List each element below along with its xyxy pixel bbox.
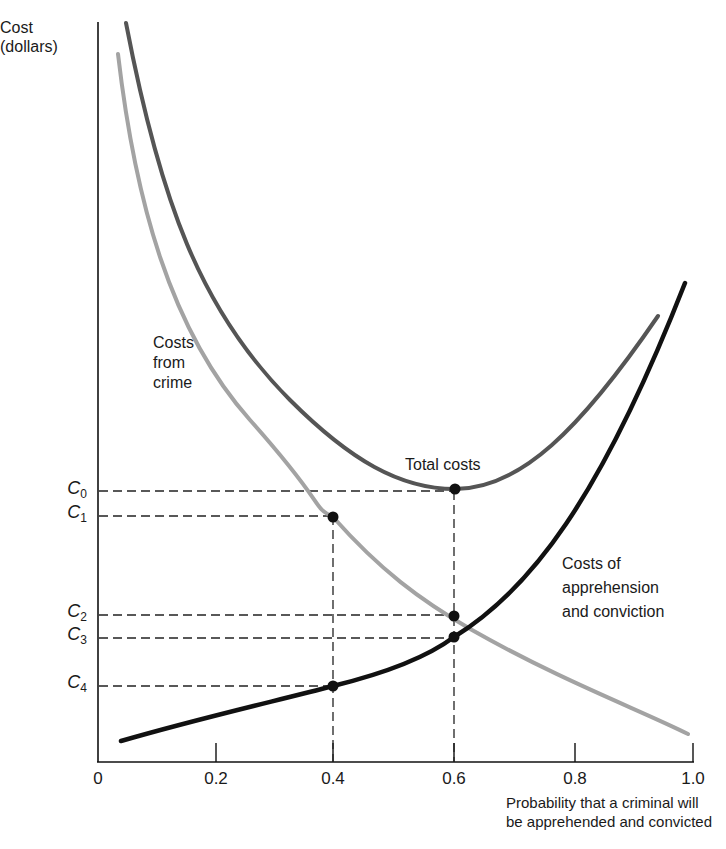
annotation-costs-of-apprehension: Costs of apprehension and conviction	[562, 552, 664, 624]
chart-canvas	[0, 0, 726, 849]
x-tick-0-4: 0.4	[321, 769, 345, 789]
x-tick-0-8: 0.8	[563, 769, 587, 789]
x-tick-1-0: 1.0	[681, 769, 705, 789]
y-tick-c4: C4	[27, 672, 87, 695]
point-c1	[328, 512, 339, 523]
point-c4	[328, 681, 339, 692]
point-c3	[449, 632, 460, 643]
x-tick-0-6: 0.6	[442, 769, 466, 789]
x-tick-0: 0	[93, 769, 102, 789]
x-tick-0-2: 0.2	[204, 769, 228, 789]
x-axis-label: Probability that a criminal will be appr…	[506, 793, 712, 831]
annotation-total-costs: Total costs	[405, 455, 481, 474]
y-tick-c3: C3	[27, 624, 87, 647]
y-tick-c1: C1	[27, 502, 87, 525]
curve-total-costs	[126, 23, 658, 489]
y-tick-c0: C0	[27, 478, 87, 501]
y-tick-c2: C2	[27, 601, 87, 624]
reference-points	[328, 484, 461, 692]
guide-lines	[99, 491, 455, 762]
curve-costs-of-apprehension	[121, 283, 685, 741]
point-c2	[449, 611, 460, 622]
annotation-costs-from-crime: Costs from crime	[153, 333, 194, 393]
point-c0	[450, 484, 461, 495]
y-axis-label: Cost (dollars)	[0, 18, 58, 56]
